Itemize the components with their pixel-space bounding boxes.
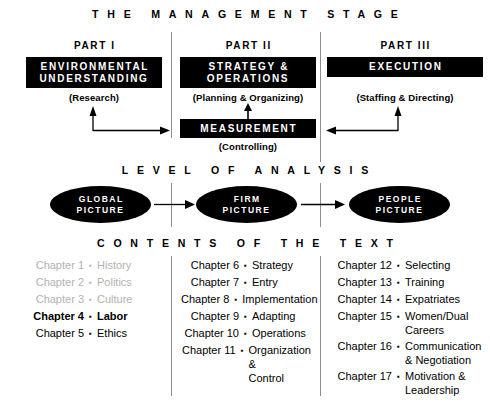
chapter-row[interactable]: Chapter 6▪Strategy — [181, 258, 317, 273]
box-environmental-understanding: ENVIRONMENTAL UNDERSTANDING — [26, 57, 162, 88]
banner-level-of-analysis: LEVEL OF ANALYSIS — [20, 164, 471, 176]
banner-management-stage: THE MANAGEMENT STAGE — [20, 8, 471, 20]
chapter-row[interactable]: Chapter 3▪Culture — [32, 292, 164, 307]
banner-contents-of-the-text: CONTENTS OF THE TEXT — [20, 237, 471, 249]
chapter-row[interactable]: Chapter 17▪Motivation & Leadership — [330, 369, 482, 397]
bullet-icon: ▪ — [84, 275, 97, 290]
chapter-topic: History — [97, 258, 131, 272]
chapter-topic: Women/Dual Careers — [405, 309, 468, 337]
chapter-number: Chapter 15 — [330, 309, 392, 323]
chapter-row[interactable]: Chapter 9▪Adapting — [181, 309, 317, 324]
bullet-icon: ▪ — [84, 309, 97, 324]
chapter-number: Chapter 16 — [330, 339, 392, 353]
bullet-icon: ▪ — [392, 275, 405, 290]
chapter-row[interactable]: Chapter 12▪Selecting — [330, 258, 482, 273]
chapter-topic: Selecting — [405, 258, 450, 272]
chapter-number: Chapter 7 — [181, 275, 239, 289]
chapter-topic: Ethics — [97, 326, 127, 340]
part-label-3: PART III — [327, 40, 483, 51]
chapter-topic: Organization & Control — [249, 343, 317, 385]
chapter-number: Chapter 10 — [181, 326, 239, 340]
divider-contents-right — [320, 256, 321, 396]
box-strategy-operations: STRATEGY & OPERATIONS — [180, 57, 316, 88]
bullet-icon: ▪ — [392, 309, 405, 324]
chapter-topic: Operations — [252, 326, 306, 340]
chapter-topic: Labor — [97, 309, 128, 323]
chapter-row[interactable]: Chapter 16▪Communication & Negotiation — [330, 339, 482, 367]
contents-column-2: Chapter 6▪StrategyChapter 7▪EntryChapter… — [181, 258, 317, 387]
chapter-row[interactable]: Chapter 8▪Implementation — [181, 292, 317, 307]
bullet-icon: ▪ — [84, 258, 97, 273]
chapter-row[interactable]: Chapter 7▪Entry — [181, 275, 317, 290]
chapter-number: Chapter 4 — [32, 309, 84, 323]
arrow-firm-to-people — [299, 198, 349, 212]
chapter-row[interactable]: Chapter 15▪Women/Dual Careers — [330, 309, 482, 337]
arrow-global-to-firm — [152, 198, 198, 212]
bullet-icon: ▪ — [239, 309, 252, 324]
bullet-icon: ▪ — [84, 326, 97, 341]
chapter-topic: Culture — [97, 292, 132, 306]
chapter-number: Chapter 11 — [181, 343, 236, 357]
bullet-icon: ▪ — [392, 339, 405, 354]
arrow-loop-left — [0, 100, 200, 145]
chapter-topic: Entry — [252, 275, 278, 289]
box-execution: EXECUTION — [327, 57, 483, 77]
chapter-row[interactable]: Chapter 1▪History — [32, 258, 164, 273]
chapter-number: Chapter 13 — [330, 275, 392, 289]
chapter-topic: Communication & Negotiation — [405, 339, 481, 367]
chapter-number: Chapter 12 — [330, 258, 392, 272]
chapter-topic: Politics — [97, 275, 132, 289]
bullet-icon: ▪ — [392, 292, 405, 307]
chapter-number: Chapter 1 — [32, 258, 84, 272]
bullet-icon: ▪ — [239, 258, 252, 273]
chapter-topic: Motivation & Leadership — [405, 369, 466, 397]
bullet-icon: ▪ — [239, 275, 252, 290]
chapter-number: Chapter 3 — [32, 292, 84, 306]
bullet-icon: ▪ — [229, 292, 242, 307]
chapter-topic: Adapting — [252, 309, 295, 323]
contents-column-3: Chapter 12▪SelectingChapter 13▪TrainingC… — [330, 258, 482, 399]
oval-global-picture: GLOBAL PICTURE — [50, 186, 151, 223]
bullet-icon: ▪ — [84, 292, 97, 307]
divider-contents-left — [171, 256, 172, 396]
sublabel-controlling: (Controlling) — [180, 141, 316, 152]
chapter-number: Chapter 14 — [330, 292, 392, 306]
chapter-topic: Training — [405, 275, 444, 289]
chapter-row[interactable]: Chapter 13▪Training — [330, 275, 482, 290]
contents-column-1: Chapter 1▪HistoryChapter 2▪PoliticsChapt… — [32, 258, 164, 343]
chapter-topic: Implementation — [242, 292, 317, 306]
chapter-number: Chapter 9 — [181, 309, 239, 323]
oval-people-picture: PEOPLE PICTURE — [349, 186, 450, 223]
chapter-row[interactable]: Chapter 14▪Expatriates — [330, 292, 482, 307]
chapter-row[interactable]: Chapter 10▪Operations — [181, 326, 317, 341]
arrow-measurement-up — [236, 103, 260, 121]
chapter-number: Chapter 8 — [181, 292, 229, 306]
chapter-topic: Strategy — [252, 258, 293, 272]
chapter-row[interactable]: Chapter 2▪Politics — [32, 275, 164, 290]
bullet-icon: ▪ — [392, 369, 405, 384]
chapter-number: Chapter 2 — [32, 275, 84, 289]
chapter-number: Chapter 17 — [330, 369, 392, 383]
box-measurement: MEASUREMENT — [180, 119, 316, 138]
diagram-canvas: THE MANAGEMENT STAGE PART I PART II PART… — [0, 0, 490, 419]
bullet-icon: ▪ — [236, 343, 249, 358]
bullet-icon: ▪ — [392, 258, 405, 273]
part-label-1: PART I — [26, 40, 162, 51]
sublabel-planning-organizing: (Planning & Organizing) — [180, 92, 316, 103]
part-label-2: PART II — [180, 40, 316, 51]
chapter-row[interactable]: Chapter 5▪Ethics — [32, 326, 164, 341]
chapter-row[interactable]: Chapter 4▪Labor — [32, 309, 164, 324]
oval-firm-picture: FIRM PICTURE — [196, 186, 297, 223]
chapter-topic: Expatriates — [405, 292, 460, 306]
chapter-number: Chapter 6 — [181, 258, 239, 272]
arrow-loop-right — [300, 100, 490, 145]
chapter-row[interactable]: Chapter 11▪Organization & Control — [181, 343, 317, 385]
chapter-number: Chapter 5 — [32, 326, 84, 340]
bullet-icon: ▪ — [239, 326, 252, 341]
